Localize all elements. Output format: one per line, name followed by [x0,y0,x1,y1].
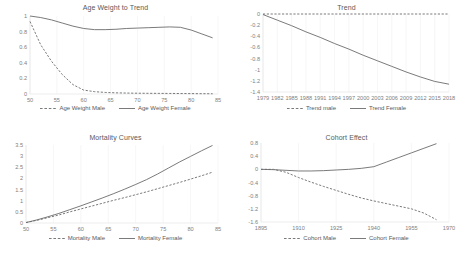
y-axis-tick-label: 0.2 [2,75,27,81]
y-axis-tick-label: -0.2 [233,22,260,28]
legend-item[interactable]: Mortality Male [49,234,105,242]
y-axis-tick-label: 3.5 [2,142,23,148]
x-axis-tick-label: 75 [160,226,166,232]
legend-item[interactable]: Trend Female [350,104,406,112]
y-axis-tick-label: -1 [233,67,260,73]
x-axis-tick-label: 75 [161,97,167,103]
panel-cohort-effect: Cohort Effect 0.80.40-0.4-0.8-1.2-1.6189… [231,130,462,260]
y-axis-tick-label: 0.8 [233,140,258,146]
x-axis-tick-label: 2018 [443,95,455,101]
legend-label: Age Weight Female [138,104,191,112]
series-line-2 [26,145,213,222]
y-axis-tick-label: -1.2 [233,78,260,84]
legend-solid-line-icon [350,106,366,111]
legend-dashed-line-icon [49,236,65,241]
x-axis-tick-label: 85 [215,97,221,103]
series-line-1 [261,169,436,219]
y-axis-tick-label: 2 [2,175,23,181]
x-axis-tick-label: 2000 [357,95,369,101]
legend-solid-line-icon [119,106,135,111]
y-axis-tick-label: -0.4 [233,180,258,186]
y-axis-tick-label: 0.8 [2,29,27,35]
y-axis-tick-label: 1 [2,198,23,204]
legend-item[interactable]: Cohort Female [350,234,409,242]
legend-item[interactable]: Age Weight Female [119,104,191,112]
x-axis-tick-label: 2003 [371,95,383,101]
x-axis-tick-label: 2012 [414,95,426,101]
x-axis-tick-label: 2015 [428,95,440,101]
legend-solid-line-icon [119,236,135,241]
y-axis-tick-label: 1.5 [2,187,23,193]
chart-title: Mortality Curves [0,133,231,142]
x-axis-tick-label: 60 [78,226,84,232]
plot-area: 0.80.40-0.4-0.8-1.2-1.618951910192519401… [261,143,449,222]
y-axis-tick-label: 0.5 [2,209,23,215]
y-axis-tick-label: -0.6 [233,44,260,50]
legend-label: Trend male [306,104,336,112]
plot-area: 0-0.2-0.4-0.6-0.8-1-1.2-1.41979198219851… [263,14,449,92]
x-axis-tick-label: 1979 [257,95,269,101]
legend-item[interactable]: Age Weight Male [40,104,105,112]
x-axis-tick-label: 85 [215,226,221,232]
x-axis-tick-label: 65 [107,97,113,103]
y-axis-tick-label: 0.6 [2,44,27,50]
chart-canvas [26,145,218,223]
y-axis-tick-label: -0.8 [233,193,258,199]
y-axis-tick-label: -0.4 [233,33,260,39]
x-axis-tick-label: 1997 [343,95,355,101]
y-axis-tick-label: 0.4 [2,60,27,66]
x-axis-tick-label: 1940 [368,225,380,231]
legend-solid-line-icon [350,236,366,241]
y-axis-tick-label: 0 [233,166,258,172]
x-axis-tick-label: 1970 [443,225,455,231]
series-line-2 [261,144,436,171]
legend-item[interactable]: Cohort Male [284,234,336,242]
y-axis-tick-label: 1 [2,13,27,19]
series-line-2 [263,15,449,85]
x-axis-tick-label: 1955 [405,225,417,231]
chart-canvas [263,14,449,92]
legend-label: Cohort Male [303,234,336,242]
y-axis-tick-label: -0.8 [233,56,260,62]
panel-mortality-curves: Mortality Curves 00.511.522.533.55055606… [0,130,231,260]
legend-label: Mortality Male [68,234,105,242]
plot-area: 00.20.40.60.815055606570758085 [30,16,218,94]
x-axis-tick-label: 70 [134,97,140,103]
x-axis-tick-label: 80 [188,97,194,103]
x-axis-tick-label: 2009 [400,95,412,101]
legend-label: Trend Female [369,104,406,112]
x-axis-tick-label: 55 [54,97,60,103]
series-line-2 [30,16,213,38]
x-axis-tick-label: 50 [27,97,33,103]
x-axis-tick-label: 55 [50,226,56,232]
chart-title: Cohort Effect [231,133,462,142]
x-axis-tick-label: 1991 [314,95,326,101]
legend-dashed-line-icon [40,106,56,111]
y-axis-tick-label: 0 [2,91,27,97]
legend-label: Age Weight Male [59,104,105,112]
chart-legend: Trend maleTrend Female [231,104,462,112]
legend-label: Mortality Female [138,234,182,242]
x-axis-tick-label: 1988 [300,95,312,101]
y-axis-tick-label: 2.5 [2,164,23,170]
x-axis-tick-label: 70 [133,226,139,232]
legend-dashed-line-icon [287,106,303,111]
legend-item[interactable]: Mortality Female [119,234,182,242]
chart-canvas [30,16,218,94]
x-axis-tick-label: 1985 [285,95,297,101]
y-axis-tick-label: 0.4 [233,153,258,159]
x-axis-tick-label: 1994 [328,95,340,101]
chart-legend: Age Weight MaleAge Weight Female [0,104,231,112]
legend-dashed-line-icon [284,236,300,241]
panel-trend: Trend 0-0.2-0.4-0.6-0.8-1-1.2-1.41979198… [231,0,462,130]
chart-legend: Mortality MaleMortality Female [0,234,231,242]
x-axis-tick-label: 65 [105,226,111,232]
x-axis-tick-label: 50 [23,226,29,232]
panel-age-weight-to-trend: Age Weight to Trend 00.20.40.60.81505560… [0,0,231,130]
x-axis-tick-label: 60 [81,97,87,103]
legend-label: Cohort Female [369,234,409,242]
y-axis-tick-label: 0 [2,220,23,226]
legend-item[interactable]: Trend male [287,104,336,112]
chart-canvas [261,143,449,222]
x-axis-tick-label: 2006 [386,95,398,101]
